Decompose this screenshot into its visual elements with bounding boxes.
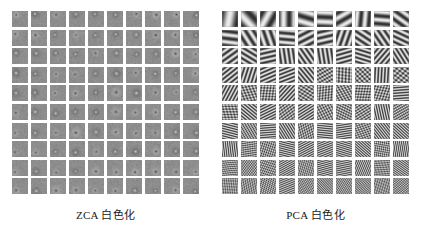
- filter-tile-image: [126, 141, 142, 157]
- filter-tile-image: [12, 104, 28, 120]
- filter-tile: [393, 11, 409, 27]
- filter-tile-image: [298, 48, 314, 64]
- filter-tile: [222, 178, 238, 194]
- filter-tile-image: [279, 104, 295, 120]
- filter-tile: [374, 178, 390, 194]
- filter-tile-image: [279, 160, 295, 176]
- filter-tile: [336, 104, 352, 120]
- filter-tile: [12, 178, 28, 194]
- filter-tile: [241, 30, 257, 46]
- filter-tile: [317, 178, 333, 194]
- filter-tile-image: [260, 30, 276, 46]
- filter-tile-image: [222, 178, 238, 194]
- filter-tile: [260, 48, 276, 64]
- filter-tile-image: [336, 178, 352, 194]
- filter-tile-image: [317, 85, 333, 101]
- filter-tile-image: [374, 67, 390, 83]
- filter-tile-image: [164, 104, 180, 120]
- filter-tile-image: [374, 48, 390, 64]
- filter-tile: [279, 11, 295, 27]
- filter-tile-image: [183, 160, 199, 176]
- filter-tile-image: [241, 123, 257, 139]
- filter-tile: [336, 123, 352, 139]
- filter-tile-image: [317, 30, 333, 46]
- filter-tile-image: [241, 104, 257, 120]
- filter-tile: [88, 178, 104, 194]
- filter-tile: [50, 30, 66, 46]
- filter-tile: [183, 178, 199, 194]
- filter-tile: [69, 11, 85, 27]
- filter-tile: [12, 48, 28, 64]
- filter-tile: [317, 30, 333, 46]
- filter-tile-image: [298, 178, 314, 194]
- filter-tile-image: [355, 48, 371, 64]
- filter-tile-image: [183, 67, 199, 83]
- filter-tile: [336, 11, 352, 27]
- filter-tile-image: [12, 141, 28, 157]
- caption-pca: PCA 白色化: [222, 206, 409, 222]
- filter-tile: [107, 104, 123, 120]
- filter-tile-image: [69, 67, 85, 83]
- filter-tile-image: [298, 141, 314, 157]
- filter-tile: [183, 85, 199, 101]
- filter-tile-image: [393, 178, 409, 194]
- filter-tile-image: [12, 30, 28, 46]
- filter-tile: [222, 67, 238, 83]
- filter-tile: [241, 48, 257, 64]
- filter-tile: [183, 48, 199, 64]
- filter-tile-image: [107, 141, 123, 157]
- filter-tile-image: [12, 178, 28, 194]
- filter-tile: [107, 160, 123, 176]
- filter-tile: [279, 104, 295, 120]
- filter-tile: [393, 141, 409, 157]
- filter-tile: [126, 160, 142, 176]
- filter-tile-image: [31, 141, 47, 157]
- filter-tile-image: [374, 141, 390, 157]
- filter-tile: [50, 67, 66, 83]
- filter-tile-image: [260, 85, 276, 101]
- filter-tile: [145, 30, 161, 46]
- filter-tile: [69, 141, 85, 157]
- filter-tile: [69, 178, 85, 194]
- filter-tile-image: [241, 141, 257, 157]
- filter-tile: [50, 11, 66, 27]
- filter-tile: [126, 48, 142, 64]
- filter-tile: [126, 178, 142, 194]
- filter-tile: [298, 141, 314, 157]
- filter-tile: [69, 67, 85, 83]
- filter-tile: [145, 178, 161, 194]
- filter-grid-zca: [12, 11, 199, 194]
- filter-tile: [298, 160, 314, 176]
- filter-tile: [126, 123, 142, 139]
- filter-tile-image: [393, 141, 409, 157]
- filter-tile: [374, 141, 390, 157]
- filter-tile-image: [164, 85, 180, 101]
- filter-tile: [355, 178, 371, 194]
- filter-tile-image: [88, 141, 104, 157]
- filter-tile: [374, 11, 390, 27]
- filter-tile: [31, 141, 47, 157]
- filter-tile-image: [393, 30, 409, 46]
- filter-tile-image: [31, 11, 47, 27]
- filter-tile-image: [31, 104, 47, 120]
- filter-tile-image: [260, 178, 276, 194]
- filter-tile-image: [279, 141, 295, 157]
- filter-tile: [241, 178, 257, 194]
- filter-tile-image: [374, 85, 390, 101]
- filter-tile: [260, 30, 276, 46]
- filter-tile: [279, 67, 295, 83]
- filter-tile: [260, 85, 276, 101]
- filter-tile-image: [241, 85, 257, 101]
- filter-tile: [393, 123, 409, 139]
- filter-tile-image: [145, 104, 161, 120]
- filter-tile: [317, 67, 333, 83]
- filter-tile: [374, 104, 390, 120]
- filter-tile: [374, 67, 390, 83]
- filter-tile: [355, 48, 371, 64]
- filter-tile-image: [31, 178, 47, 194]
- filter-tile-image: [31, 30, 47, 46]
- filter-tile-image: [183, 123, 199, 139]
- filter-tile: [222, 85, 238, 101]
- filter-tile-image: [50, 85, 66, 101]
- filter-tile: [12, 123, 28, 139]
